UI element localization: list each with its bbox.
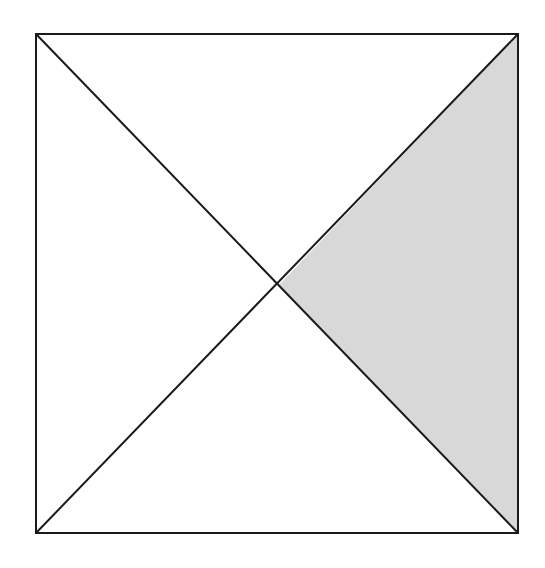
square-diagonals-diagram [0, 0, 545, 568]
shaded-right-triangle [279, 34, 518, 533]
